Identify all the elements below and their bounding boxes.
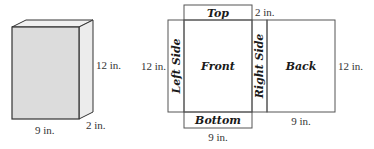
net-bottom-width-label: 9 in. (208, 131, 228, 143)
net-right-side-label: Right Side (253, 34, 266, 100)
net-front-label: Front (200, 60, 235, 73)
net-back-label: Back (285, 60, 317, 73)
box-width-label: 9 in. (35, 124, 55, 136)
net-bottom-label: Bottom (194, 114, 241, 127)
net-top-depth-label: 2 in. (255, 6, 275, 18)
net-left-height-label: 12 in. (141, 60, 166, 72)
box-front-face (12, 27, 79, 119)
net-top-label: Top (207, 7, 229, 20)
box-height-label: 12 in. (96, 59, 121, 71)
box-side-face (79, 20, 93, 119)
net-left-side-label: Left Side (170, 38, 183, 94)
net-right-height-label: 12 in. (338, 60, 363, 72)
box-depth-label: 2 in. (86, 119, 106, 131)
box-and-net-diagram: 12 in. 9 in. 2 in. Top Front Bottom Back… (0, 0, 374, 149)
rectangular-prism: 12 in. 9 in. 2 in. (12, 20, 121, 136)
net-back-width-label: 9 in. (291, 115, 311, 127)
